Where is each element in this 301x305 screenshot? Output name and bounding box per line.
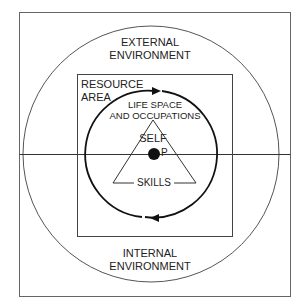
skills-label: SKILLS xyxy=(134,177,174,189)
self-label: SELF xyxy=(135,132,171,145)
external-line2: ENVIRONMENT xyxy=(100,49,200,62)
external-label: EXTERNAL ENVIRONMENT xyxy=(100,36,200,61)
life-space-line2: AND OCCUPATIONS xyxy=(100,111,210,122)
resource-line1: RESOURCE xyxy=(81,78,143,91)
person-dot xyxy=(148,148,160,160)
internal-line2: ENVIRONMENT xyxy=(100,260,200,273)
person-label: P xyxy=(161,147,168,159)
internal-line1: INTERNAL xyxy=(100,247,200,260)
life-space-label: LIFE SPACE AND OCCUPATIONS xyxy=(100,100,210,122)
external-line1: EXTERNAL xyxy=(100,36,200,49)
arrow-top-icon xyxy=(152,87,161,95)
internal-label: INTERNAL ENVIRONMENT xyxy=(100,247,200,272)
arrow-bottom-icon xyxy=(150,214,159,222)
